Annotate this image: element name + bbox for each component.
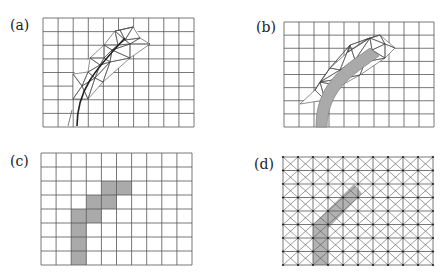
panel-a-mesh [43, 18, 194, 127]
panel-c-grid [41, 153, 192, 265]
panel-d-label: (d) [254, 156, 274, 172]
panel-b-label: (b) [256, 19, 276, 35]
panel-c-label: (c) [10, 153, 29, 169]
panel-d-triangulated-grid [282, 156, 434, 266]
figure-canvas: (a) (b) (c) (d) [0, 0, 448, 274]
panel-b-mesh [284, 22, 434, 127]
panel-a-label: (a) [10, 17, 29, 33]
